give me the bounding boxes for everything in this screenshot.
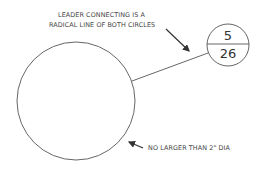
arrow-top	[166, 29, 189, 51]
large-circle	[17, 42, 135, 160]
annotation-top-line1: LEADER CONNECTING IS A	[58, 11, 145, 19]
leader-line	[132, 53, 208, 81]
annotation-bottom: NO LARGER THAN 2" DIA	[148, 144, 230, 152]
bubble-top-value: 5	[208, 29, 248, 43]
annotation-top-line2: RADICAL LINE OF BOTH CIRCLES	[49, 21, 155, 29]
arrow-bottom	[129, 142, 143, 148]
bubble-bottom-value: 26	[208, 47, 248, 61]
